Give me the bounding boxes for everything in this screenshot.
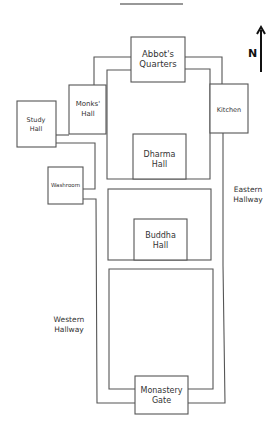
room-label: Kitchen — [217, 106, 241, 114]
floor-plan: Abbot's Quarters Monks' Hall Kitchen Stu… — [0, 0, 278, 433]
room-abbots-quarters[interactable]: Abbot's Quarters — [131, 37, 185, 82]
svg-text:Eastern: Eastern — [234, 185, 263, 194]
room-label: Gate — [152, 396, 171, 405]
room-label: Dharma — [144, 150, 176, 159]
room-washroom[interactable]: Washroom — [48, 167, 83, 204]
room-buddha-hall[interactable]: Buddha Hall — [134, 219, 187, 260]
room-label: Washroom — [51, 182, 80, 188]
room-label: Quarters — [139, 59, 177, 69]
room-label: Monks' — [76, 100, 100, 108]
room-study-hall[interactable]: Study Hall — [17, 101, 56, 147]
room-label: Hall — [153, 241, 168, 250]
room-label: Monastery — [140, 386, 182, 395]
north-compass: N — [248, 27, 265, 72]
label-eastern-hallway: Eastern Hallway — [233, 185, 263, 204]
room-label: Study — [27, 116, 46, 124]
room-monks-hall[interactable]: Monks' Hall — [69, 85, 106, 134]
room-kitchen[interactable]: Kitchen — [210, 84, 248, 133]
room-label: Hall — [81, 110, 94, 118]
room-monastery-gate[interactable]: Monastery Gate — [135, 376, 188, 414]
label-western-hallway: Western Hallway — [54, 315, 85, 334]
svg-text:Western: Western — [54, 315, 85, 324]
room-label: Abbot's — [142, 49, 174, 59]
room-dharma-hall[interactable]: Dharma Hall — [133, 134, 186, 179]
room-label: Hall — [152, 160, 167, 169]
room-label: Buddha — [145, 231, 176, 240]
north-label: N — [248, 47, 257, 60]
svg-text:Hallway: Hallway — [233, 195, 263, 204]
svg-text:Hallway: Hallway — [54, 325, 84, 334]
room-label: Hall — [30, 125, 43, 133]
